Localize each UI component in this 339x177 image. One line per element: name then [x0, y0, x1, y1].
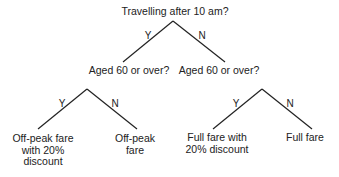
age-question-left: Aged 60 or over? [89, 65, 170, 77]
edge-root-yes [123, 21, 173, 62]
left-no-label: N [111, 99, 118, 109]
outcome-line: Full fare with [185, 132, 248, 144]
edge-right-no [262, 89, 312, 129]
edge-root-no [173, 21, 225, 62]
right-yes-label: Y [233, 99, 240, 109]
edge-right-yes [213, 89, 262, 129]
outcome-offpeak-discount: Off-peak fare with 20% discount [12, 133, 73, 168]
left-yes-label: Y [59, 99, 66, 109]
age-question-left-text: Aged 60 or over? [89, 65, 170, 77]
root-yes-label: Y [145, 31, 152, 41]
root-question-text: Travelling after 10 am? [122, 6, 229, 18]
outcome-line: discount [12, 156, 73, 168]
outcome-line: Full fare [286, 132, 324, 144]
outcome-offpeak: Off-peak fare [115, 133, 155, 156]
outcome-line: 20% discount [185, 144, 248, 156]
root-no-label: N [198, 31, 205, 41]
edge-left-yes [38, 89, 87, 129]
edge-left-no [87, 89, 137, 129]
fare-decision-tree: Travelling after 10 am? Y N Aged 60 or o… [0, 0, 339, 177]
outcome-line: Off-peak fare [12, 133, 73, 145]
outcome-line: fare [115, 145, 155, 157]
age-question-right: Aged 60 or over? [179, 65, 260, 77]
outcome-line: Off-peak [115, 133, 155, 145]
right-no-label: N [286, 99, 293, 109]
root-question: Travelling after 10 am? [122, 6, 229, 18]
age-question-right-text: Aged 60 or over? [179, 65, 260, 77]
outcome-fullfare: Full fare [286, 132, 324, 144]
outcome-fullfare-discount: Full fare with 20% discount [185, 132, 248, 155]
